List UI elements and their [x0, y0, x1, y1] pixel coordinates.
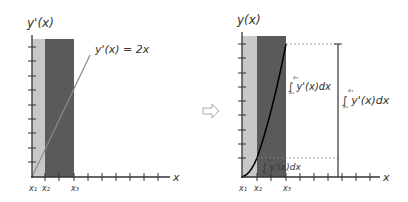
left-tick-x3: x₃ — [70, 184, 79, 193]
svg-text:∫ y'(x)dx: ∫ y'(x)dx — [262, 162, 301, 172]
right-tick-x1: x₁ — [238, 184, 247, 193]
right-y-axis-label: y(x) — [236, 13, 261, 27]
left-graph: y'(x) y'(x) = 2x x x₁ x₂ x₃ — [26, 16, 180, 193]
svg-text:x₁: x₁ — [262, 170, 268, 175]
total-integral-label: ∫ y'(x)dx x₃ x₁ — [342, 87, 390, 109]
dark-band-x2-x3 — [45, 39, 74, 177]
svg-text:∫ y'(x)dx: ∫ y'(x)dx — [342, 94, 390, 107]
right-tick-x2: x₂ — [253, 184, 263, 193]
svg-text:x₃: x₃ — [347, 87, 353, 93]
diagram-canvas: y'(x) y'(x) = 2x x x₁ x₂ x₃ — [0, 0, 408, 202]
svg-text:x₁: x₁ — [342, 103, 348, 109]
left-y-axis-label: y'(x) — [26, 16, 54, 30]
light-band-x1-x2 — [32, 39, 45, 177]
right-tick-x3: x₃ — [282, 184, 291, 193]
svg-text:x₂: x₂ — [288, 89, 294, 95]
left-x-axis-label: x — [172, 171, 180, 184]
equation-label: y'(x) = 2x — [94, 43, 150, 56]
light-band-x1-x2 — [242, 36, 257, 177]
svg-text:∫ y'(x)dx: ∫ y'(x)dx — [288, 81, 331, 92]
left-tick-x2: x₂ — [41, 184, 51, 193]
right-arrow-icon — [203, 104, 219, 118]
left-tick-x1: x₁ — [28, 184, 37, 193]
right-x-axis-label: x — [382, 171, 390, 184]
right-graph: y(x) x x₁ x₂ x₃ ∫ y'(x)dx x₃ x₂ ∫ y'(x)d… — [236, 13, 390, 193]
svg-text:x₃: x₃ — [292, 74, 298, 80]
upper-integral-label: ∫ y'(x)dx x₃ x₂ — [288, 74, 331, 95]
svg-text:x₂: x₂ — [266, 157, 272, 162]
